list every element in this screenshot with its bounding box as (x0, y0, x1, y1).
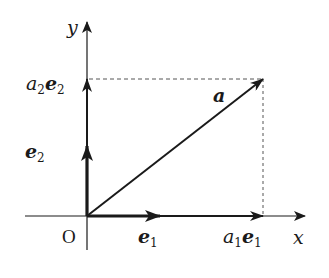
x-axis-label: x (293, 226, 304, 248)
e2-label: e2 (25, 140, 45, 165)
a2e2-label: a2e2 (26, 72, 65, 97)
a1e1-label: a1e1 (223, 225, 262, 250)
a-vector-label: a (213, 84, 225, 106)
origin-label: O (62, 226, 76, 247)
a1e1-vec-sub: 1 (254, 236, 262, 250)
e1-label-base: e (138, 225, 150, 247)
a2e2-vec-base: e (45, 72, 57, 94)
a2e2-vec-sub: 2 (57, 83, 65, 97)
y-axis-label: y (66, 16, 78, 38)
a2e2-coef-sub: 2 (37, 83, 45, 97)
vector-diagram: y x O a e2 e1 a2e2 a1e1 (0, 0, 329, 278)
a1e1-vec-base: e (242, 225, 254, 247)
e2-label-sub: 2 (37, 151, 45, 165)
a-vector (87, 79, 263, 216)
e2-label-base: e (25, 140, 37, 162)
a2e2-coef-base: a (26, 72, 37, 94)
e1-label: e1 (138, 225, 158, 250)
a1e1-coef-base: a (223, 225, 234, 247)
a1e1-coef-sub: 1 (234, 236, 242, 250)
e1-label-sub: 1 (150, 236, 158, 250)
